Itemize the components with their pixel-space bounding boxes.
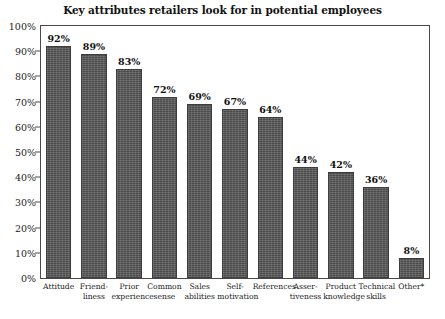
x-tick-label: Priorexperience <box>112 282 147 302</box>
y-tick-label: 50% <box>15 147 36 158</box>
x-tick-label: Salesabilities <box>182 282 217 302</box>
x-tick-label-line: abilities <box>182 292 217 302</box>
x-tick-label-line: Other* <box>394 282 429 292</box>
bar-group[interactable]: 42% <box>328 26 353 278</box>
x-tick-label-line: Technical <box>358 282 393 292</box>
bar[interactable] <box>258 117 283 278</box>
x-tick-label: Technicalskills <box>358 282 393 302</box>
x-tick-label-line: References <box>253 282 288 292</box>
y-tick-label: 70% <box>15 96 36 107</box>
x-tick-label-line: sense <box>147 292 182 302</box>
bar-group[interactable]: 92% <box>46 26 71 278</box>
x-tick-label-line: Product <box>323 282 358 292</box>
bar-value-label: 69% <box>189 91 211 102</box>
bar-value-label: 89% <box>83 41 105 52</box>
x-axis: AttitudeFriend-linessPriorexperienceComm… <box>41 282 429 318</box>
y-tick-label: 100% <box>9 21 36 32</box>
x-tick-label: Other* <box>394 282 429 292</box>
x-tick-label: Self-motivation <box>217 282 252 302</box>
x-tick-label-line: liness <box>76 292 111 302</box>
bar[interactable] <box>152 97 177 278</box>
bar-value-label: 44% <box>294 154 316 165</box>
bar[interactable] <box>222 109 247 278</box>
bar[interactable] <box>46 46 71 278</box>
bar-value-label: 42% <box>330 159 352 170</box>
x-tick-label: Asser-tiveness <box>288 282 323 302</box>
x-tick-label: Productknowledge <box>323 282 358 302</box>
bar-group[interactable]: 64% <box>258 26 283 278</box>
chart-title: Key attributes retailers look for in pot… <box>0 4 445 16</box>
x-tick-label-line: Prior <box>112 282 147 292</box>
x-tick-label: References <box>253 282 288 292</box>
bar-group[interactable]: 89% <box>81 26 106 278</box>
y-tick-label: 0% <box>21 273 36 284</box>
x-tick-label: Commonsense <box>147 282 182 302</box>
x-tick-label-line: experience <box>112 292 147 302</box>
x-tick-label-line: Friend- <box>76 282 111 292</box>
bar[interactable] <box>399 258 424 278</box>
x-tick-label-line: tiveness <box>288 292 323 302</box>
x-tick-label: Attitude <box>41 282 76 292</box>
y-axis: 0%10%20%30%40%50%60%70%80%90%100% <box>0 25 36 279</box>
x-tick-label: Friend-liness <box>76 282 111 302</box>
bar-value-label: 83% <box>118 56 140 67</box>
bar-value-label: 36% <box>365 174 387 185</box>
x-tick-label-line: Sales <box>182 282 217 292</box>
bar-group[interactable]: 36% <box>363 26 388 278</box>
bar[interactable] <box>187 104 212 278</box>
chart-figure: Key attributes retailers look for in pot… <box>0 0 445 319</box>
y-tick-label: 40% <box>15 172 36 183</box>
x-tick-label-line: Common <box>147 282 182 292</box>
bar-value-label: 8% <box>404 245 420 256</box>
x-tick-label-line: Self- <box>217 282 252 292</box>
y-tick-label: 60% <box>15 121 36 132</box>
bar-group[interactable]: 72% <box>152 26 177 278</box>
bar-value-label: 72% <box>153 84 175 95</box>
bar[interactable] <box>116 69 141 278</box>
x-tick-label-line: Asser- <box>288 282 323 292</box>
x-tick-label-line: knowledge <box>323 292 358 302</box>
bar-group[interactable]: 83% <box>116 26 141 278</box>
bars-container: 92%89%83%72%69%67%64%44%42%36%8% <box>41 26 429 278</box>
bar[interactable] <box>81 54 106 278</box>
bar[interactable] <box>328 172 353 278</box>
bar-group[interactable]: 44% <box>293 26 318 278</box>
bar-group[interactable]: 69% <box>187 26 212 278</box>
bar[interactable] <box>363 187 388 278</box>
bar-value-label: 64% <box>259 104 281 115</box>
x-tick-label-line: Attitude <box>41 282 76 292</box>
bar-group[interactable]: 67% <box>222 26 247 278</box>
bar-group[interactable]: 8% <box>399 26 424 278</box>
y-tick-label: 30% <box>15 197 36 208</box>
y-tick-label: 10% <box>15 247 36 258</box>
x-tick-label-line: motivation <box>217 292 252 302</box>
y-tick-label: 80% <box>15 71 36 82</box>
bar[interactable] <box>293 167 318 278</box>
bar-value-label: 67% <box>224 96 246 107</box>
y-tick-label: 20% <box>15 222 36 233</box>
bar-value-label: 92% <box>48 33 70 44</box>
y-tick-label: 90% <box>15 46 36 57</box>
x-tick-label-line: skills <box>358 292 393 302</box>
